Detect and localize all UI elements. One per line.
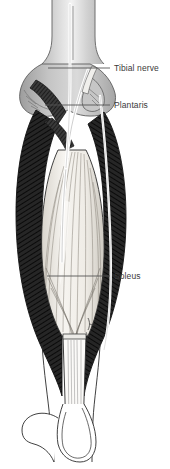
label-plantaris: Plantaris (114, 100, 148, 110)
femur-shaft-group (42, 0, 104, 64)
calcaneus-group (22, 404, 96, 462)
label-soleus: Soleus (114, 271, 141, 281)
anatomy-figure: Tibial nerve Plantaris Soleus (0, 0, 170, 469)
soleus-group (42, 150, 104, 336)
label-tibial-nerve: Tibial nerve (114, 63, 159, 73)
